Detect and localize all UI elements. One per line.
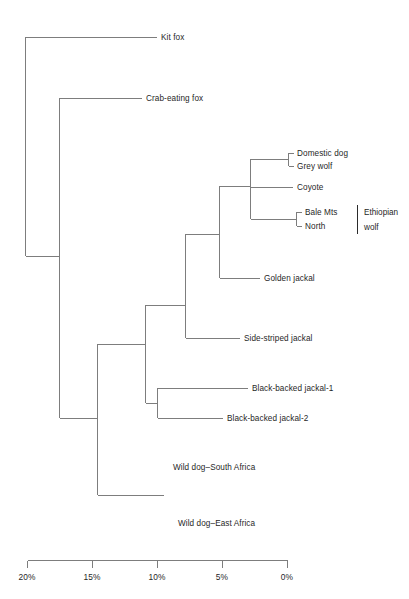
tip-label-black-backed-jackal-2: Black-backed jackal-2	[227, 414, 308, 423]
tip-label-golden-jackal: Golden jackal	[264, 274, 315, 283]
axis-tick-label-15: 15%	[83, 573, 100, 582]
axis-tick-label-20: 20%	[18, 573, 35, 582]
group-label-ethiopian-wolf-line2: wolf	[364, 223, 379, 232]
scale-axis	[28, 561, 288, 569]
tip-label-domestic-dog: Domestic dog	[297, 149, 348, 158]
tip-label-black-backed-jackal-1: Black-backed jackal-1	[252, 384, 333, 393]
tip-label-bale-mts: Bale Mts	[305, 208, 338, 217]
tip-label-coyote: Coyote	[297, 183, 323, 192]
axis-tick-label-0: 0%	[281, 573, 293, 582]
tip-label-wild-dog-south-africa: Wild dog–South Africa	[173, 463, 255, 472]
tip-label-grey-wolf: Grey wolf	[297, 162, 332, 171]
tree-diagram	[0, 0, 409, 599]
tip-label-kit-fox: Kit fox	[161, 33, 184, 42]
phylogenetic-tree-figure: Kit fox Crab-eating fox Domestic dog Gre…	[0, 0, 409, 599]
tree-branches	[26, 37, 303, 496]
tip-label-side-striped-jackal: Side-striped jackal	[244, 334, 312, 343]
group-label-ethiopian-wolf-line1: Ethiopian	[364, 208, 398, 217]
tip-label-wild-dog-east-africa: Wild dog–East Africa	[178, 519, 255, 528]
axis-tick-label-10: 10%	[148, 573, 165, 582]
tip-label-crab-eating-fox: Crab-eating fox	[146, 94, 203, 103]
axis-tick-label-5: 5%	[216, 573, 228, 582]
tip-label-north: North	[305, 222, 325, 231]
